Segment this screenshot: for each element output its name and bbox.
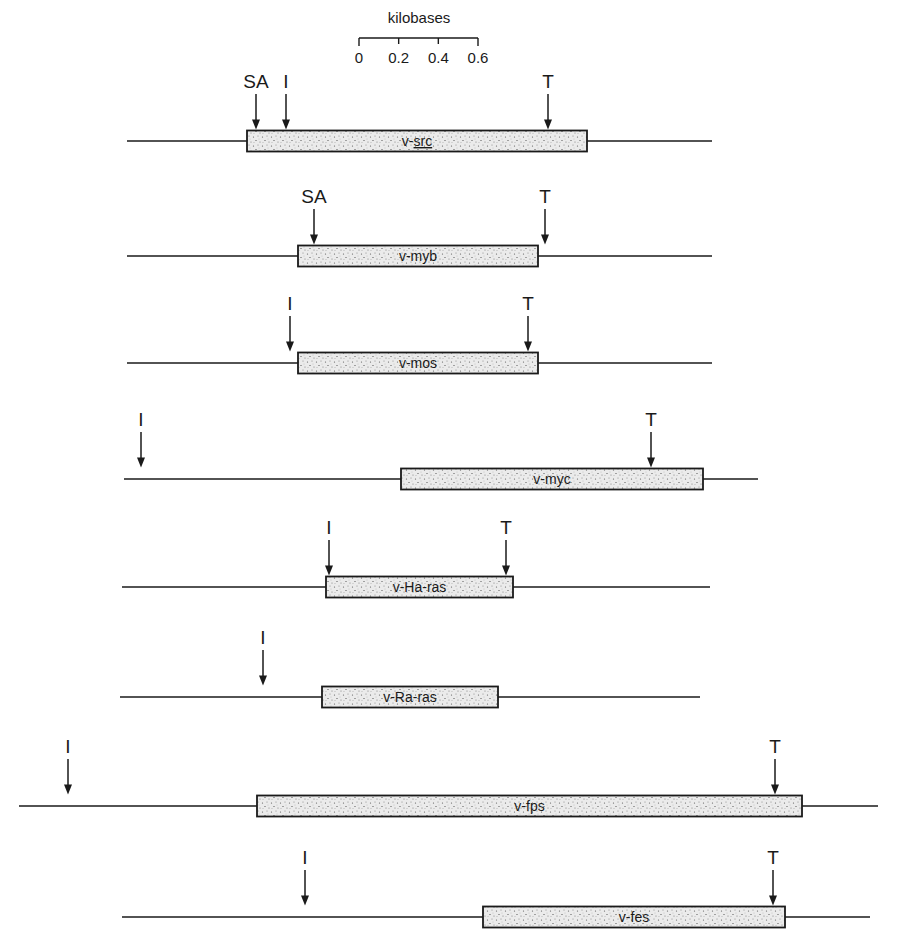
- marker-label: T: [645, 409, 657, 430]
- marker-label: T: [542, 71, 554, 92]
- marker-label: T: [767, 847, 779, 868]
- marker-label: I: [287, 293, 292, 314]
- marker-termination: T: [522, 293, 534, 352]
- marker-label: I: [138, 409, 143, 430]
- gene-row-ra-ras: v-Ra-rasI: [120, 627, 700, 708]
- scale-tick-label: 0.6: [468, 49, 489, 66]
- scale-tick-label: 0.4: [428, 49, 449, 66]
- marker-label: I: [283, 71, 288, 92]
- marker-initiation: I: [286, 293, 294, 352]
- marker-label: T: [769, 736, 781, 757]
- marker-termination: T: [767, 847, 779, 906]
- gene-row-myc: v-mycIT: [124, 409, 758, 490]
- marker-label: T: [539, 186, 551, 207]
- marker-termination: T: [500, 517, 512, 576]
- gene-label: v-fes: [619, 909, 649, 925]
- gene-row-mos: v-mosIT: [127, 293, 712, 374]
- scale-tick-label: 0.2: [388, 49, 409, 66]
- scale-title: kilobases: [388, 9, 451, 26]
- marker-label: T: [522, 293, 534, 314]
- marker-termination: T: [542, 71, 554, 130]
- marker-label: SA: [301, 186, 327, 207]
- gene-label: v-src: [402, 133, 432, 149]
- oncogene-diagram: kilobases 00.20.40.6 v-srcSAITv-mybSATv-…: [0, 0, 898, 950]
- marker-splice-acceptor: SA: [243, 71, 269, 130]
- gene-row-ha-ras: v-Ha-rasIT: [122, 517, 710, 598]
- scale-bar: kilobases 00.20.40.6: [355, 9, 489, 66]
- gene-row-fps: v-fpsIT: [19, 736, 878, 817]
- marker-label: I: [65, 736, 70, 757]
- marker-label: I: [326, 517, 331, 538]
- gene-label: v-fps: [514, 798, 544, 814]
- marker-termination: T: [769, 736, 781, 795]
- marker-initiation: I: [282, 71, 290, 130]
- scale-ruler: [359, 38, 478, 46]
- marker-initiation: I: [259, 627, 267, 686]
- marker-initiation: I: [325, 517, 333, 576]
- marker-label: I: [260, 627, 265, 648]
- gene-row-src: v-srcSAIT: [127, 71, 712, 152]
- marker-initiation: I: [64, 736, 72, 795]
- gene-rows: v-srcSAITv-mybSATv-mosITv-mycITv-Ha-rasI…: [19, 71, 878, 928]
- gene-row-fes: v-fesIT: [122, 847, 870, 928]
- gene-label: v-Ra-ras: [383, 689, 437, 705]
- scale-tick-labels: 00.20.40.6: [355, 49, 489, 66]
- marker-termination: T: [539, 186, 551, 245]
- scale-tick-label: 0: [355, 49, 363, 66]
- marker-splice-acceptor: SA: [301, 186, 327, 245]
- marker-termination: T: [645, 409, 657, 468]
- gene-row-myb: v-mybSAT: [127, 186, 712, 267]
- marker-initiation: I: [137, 409, 145, 468]
- gene-label: v-myb: [399, 248, 437, 264]
- gene-label: v-myc: [533, 471, 570, 487]
- gene-label: v-mos: [399, 355, 437, 371]
- marker-label: I: [302, 847, 307, 868]
- gene-label: v-Ha-ras: [393, 579, 447, 595]
- marker-initiation: I: [301, 847, 309, 906]
- marker-label: SA: [243, 71, 269, 92]
- marker-label: T: [500, 517, 512, 538]
